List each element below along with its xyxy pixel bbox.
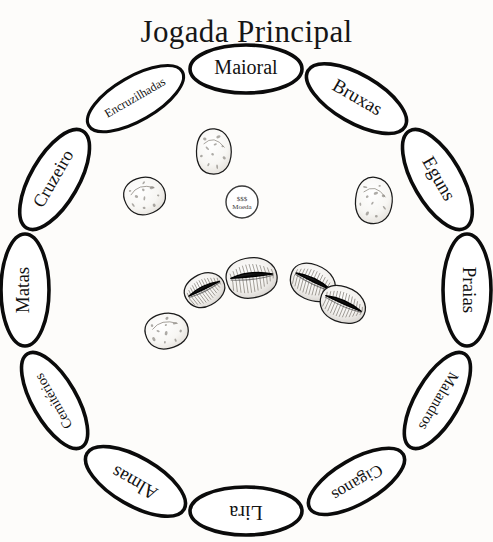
segment-maioral[interactable]: Maioral bbox=[190, 45, 302, 93]
segment-cruzeiro[interactable]: Cruzeiro bbox=[6, 119, 104, 240]
segment-eguns[interactable]: Eguns bbox=[389, 119, 487, 240]
segment-encruzilhadas[interactable]: Encruzilhadas bbox=[78, 53, 194, 145]
segment-label: Matas bbox=[12, 267, 33, 313]
cowrie-shell-closed bbox=[119, 171, 170, 220]
segment-almas[interactable]: Almas bbox=[75, 433, 196, 531]
cowrie-shell-closed bbox=[141, 308, 192, 354]
segment-lira[interactable]: Lira bbox=[190, 487, 302, 535]
cowrie-shell-closed bbox=[352, 175, 396, 227]
segment-label: Praias bbox=[459, 267, 480, 313]
coin-label: Moeda bbox=[232, 203, 252, 211]
open-shells-group bbox=[179, 253, 371, 329]
segment-ciganos[interactable]: Ciganos bbox=[299, 435, 415, 527]
segment-cemitérios[interactable]: Cemitérios bbox=[9, 343, 101, 459]
segment-label: Lira bbox=[229, 502, 262, 524]
coin-symbol: $$$ bbox=[237, 195, 248, 203]
cowrie-shell-open bbox=[223, 253, 281, 303]
cowrie-shell-open bbox=[179, 265, 231, 314]
divination-board[interactable]: MaioralBruxasEgunsPraiasMalandrosCiganos… bbox=[0, 0, 493, 542]
segment-bruxas[interactable]: Bruxas bbox=[296, 50, 417, 148]
cowrie-shell-closed bbox=[194, 127, 234, 176]
segment-matas[interactable]: Matas bbox=[1, 234, 49, 346]
segment-malandros[interactable]: Malandros bbox=[391, 343, 483, 459]
moeda-token[interactable]: $$$Moeda bbox=[226, 186, 258, 218]
screenshot-root: Jogada Principal MaioralBruxasEgunsPraia… bbox=[0, 0, 493, 542]
segment-praias[interactable]: Praias bbox=[443, 234, 491, 346]
segment-label: Maioral bbox=[214, 56, 278, 78]
